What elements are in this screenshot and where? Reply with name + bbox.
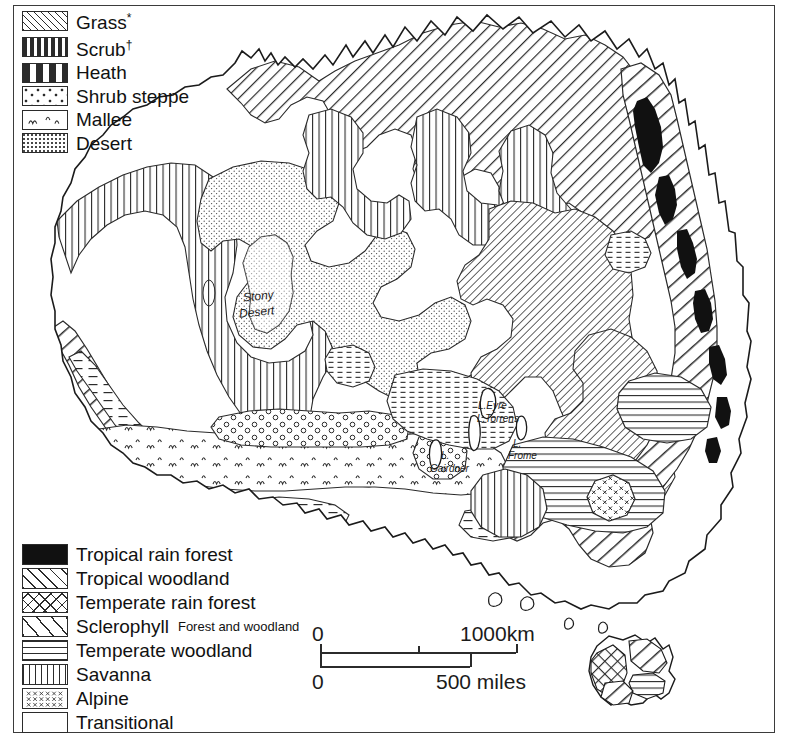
legend-item-heath[interactable]: Heath	[22, 63, 189, 83]
legend-item-sclerophyll[interactable]: SclerophyllForest and woodland	[22, 616, 299, 637]
sclerophyll-label: Sclerophyll	[76, 617, 169, 636]
mallee-swatch	[22, 110, 68, 130]
legend-item-tropical-woodland[interactable]: Tropical woodland	[22, 568, 299, 589]
tropical-rain-forest-label: Tropical rain forest	[76, 545, 233, 564]
grass-label: Grass*	[76, 9, 131, 32]
scrub-swatch	[22, 37, 68, 57]
heath-label: Heath	[76, 63, 127, 82]
transitional-swatch	[22, 712, 68, 733]
map-page: StonyDesertL.EyreL.TorrensL.FromeL.Gaird…	[0, 0, 788, 751]
transitional-label: Transitional	[76, 713, 174, 732]
scrub-footnote-marker: †	[126, 38, 133, 52]
legend-item-shrub-steppe[interactable]: Shrub steppe	[22, 86, 189, 106]
shrub-steppe-label: Shrub steppe	[76, 87, 189, 106]
desert-swatch	[22, 133, 68, 153]
legend-item-grass[interactable]: Grass*	[22, 9, 189, 32]
sclerophyll-sublabel: Forest and woodland	[178, 619, 299, 634]
scale-miles-end-label: 500 miles	[436, 670, 526, 694]
legend-item-transitional[interactable]: Transitional	[22, 712, 299, 733]
desert-label: Desert	[76, 134, 132, 153]
temperate-woodland-label: Temperate woodland	[76, 641, 252, 660]
scale-miles-zero-label: 0	[312, 670, 324, 694]
scale-km-zero-label: 0	[312, 622, 324, 646]
alpine-label: Alpine	[76, 689, 129, 708]
scale-miles-bar	[320, 666, 470, 668]
legend-item-desert[interactable]: Desert	[22, 133, 189, 153]
scale-miles-tick-left	[320, 652, 322, 667]
scrub-label: Scrub†	[76, 36, 132, 59]
legend-item-alpine[interactable]: Alpine	[22, 688, 299, 709]
legend-item-savanna[interactable]: Savanna	[22, 664, 299, 685]
scale-km-tick-right	[516, 644, 518, 653]
grass-footnote-marker: *	[127, 11, 132, 25]
tropical-woodland-label: Tropical woodland	[76, 569, 230, 588]
temperate-rain-forest-label: Temperate rain forest	[76, 593, 256, 612]
grass-swatch	[22, 11, 68, 31]
shrub-steppe-swatch	[22, 86, 68, 106]
sclerophyll-swatch	[22, 616, 68, 637]
savanna-swatch	[22, 664, 68, 685]
legend-vegetation-formations: Tropical rain forestTropical woodlandTem…	[22, 544, 299, 736]
legend-item-temperate-woodland[interactable]: Temperate woodland	[22, 640, 299, 661]
legend-item-tropical-rain-forest[interactable]: Tropical rain forest	[22, 544, 299, 565]
temperate-rain-forest-swatch	[22, 592, 68, 613]
legend-item-temperate-rain-forest[interactable]: Temperate rain forest	[22, 592, 299, 613]
scale-km-tick-mid	[418, 646, 420, 653]
tropical-rain-forest-swatch	[22, 544, 68, 565]
savanna-label: Savanna	[76, 665, 151, 684]
mallee-label: Mallee	[76, 110, 132, 129]
scale-km-end-label: 1000km	[460, 622, 535, 646]
legend-item-mallee[interactable]: Mallee	[22, 110, 189, 130]
scale-miles-tick-right	[470, 652, 472, 667]
tropical-woodland-swatch	[22, 568, 68, 589]
temperate-woodland-swatch	[22, 640, 68, 661]
legend-item-scrub[interactable]: Scrub†	[22, 36, 189, 59]
heath-swatch	[22, 63, 68, 83]
legend-vegetation-structural: Grass*Scrub†HeathShrub steppeMalleeDeser…	[22, 9, 189, 157]
alpine-swatch	[22, 688, 68, 709]
